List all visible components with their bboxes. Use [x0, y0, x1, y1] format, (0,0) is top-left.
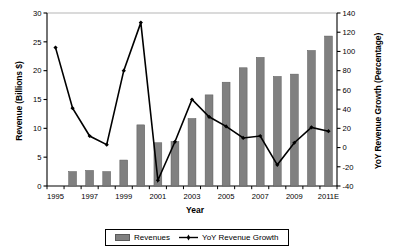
legend-item-yoy-growth: YoY Revenue Growth — [179, 233, 279, 242]
svg-text:20: 20 — [343, 124, 351, 133]
svg-text:2001: 2001 — [149, 192, 166, 201]
svg-text:30: 30 — [33, 9, 41, 18]
svg-text:60: 60 — [343, 86, 351, 95]
svg-text:0: 0 — [37, 182, 41, 191]
bar-2010 — [307, 50, 315, 186]
svg-text:15: 15 — [33, 95, 41, 104]
svg-text:1995: 1995 — [47, 192, 64, 201]
x-axis-ticks: 199519971999200120032005200720092011E — [47, 186, 339, 201]
bar-1996 — [69, 172, 77, 186]
line-marker-2000 — [139, 21, 143, 25]
svg-text:2007: 2007 — [252, 192, 269, 201]
svg-text:20: 20 — [33, 66, 41, 75]
svg-text:-40: -40 — [343, 182, 354, 191]
svg-text:80: 80 — [343, 66, 351, 75]
bar-2003 — [188, 119, 196, 186]
bar-2007 — [256, 57, 264, 186]
bar-1999 — [120, 160, 128, 186]
bar-2008 — [273, 76, 281, 186]
bar-2011E — [325, 36, 333, 186]
svg-text:5: 5 — [37, 153, 41, 162]
line-marker-icon — [179, 233, 198, 242]
svg-text:1999: 1999 — [115, 192, 132, 201]
svg-text:140: 140 — [343, 9, 356, 18]
line-marker-1999 — [122, 69, 126, 73]
bar-series-revenues — [69, 36, 333, 186]
legend-label-yoy-growth: YoY Revenue Growth — [202, 233, 279, 242]
svg-text:2011E: 2011E — [318, 192, 339, 201]
bar-2006 — [239, 68, 247, 186]
y-axis-right-ticks: -40-20020406080100120140 — [337, 9, 355, 191]
legend-label-revenues: Revenues — [134, 233, 170, 242]
bar-1997 — [86, 170, 94, 186]
chart-plot-area: 051015202530 -40-20020406080100120140 19… — [0, 0, 403, 252]
bar-1998 — [103, 172, 111, 186]
bar-2009 — [290, 74, 298, 186]
chart-figure: Revenue (Billions $) YoY Revenue Growth … — [0, 0, 403, 252]
svg-text:2009: 2009 — [286, 192, 303, 201]
svg-text:1997: 1997 — [81, 192, 98, 201]
svg-text:25: 25 — [33, 38, 41, 47]
svg-text:10: 10 — [33, 124, 41, 133]
legend-item-revenues: Revenues — [115, 233, 170, 242]
svg-text:2005: 2005 — [218, 192, 235, 201]
bar-2004 — [205, 95, 213, 186]
bar-2005 — [222, 82, 230, 186]
svg-text:-20: -20 — [343, 163, 354, 172]
chart-legend: Revenues YoY Revenue Growth — [105, 229, 289, 246]
line-marker-1995 — [53, 46, 57, 50]
y-axis-left-ticks: 051015202530 — [33, 9, 47, 191]
bar-2000 — [137, 125, 145, 186]
svg-text:0: 0 — [343, 143, 347, 152]
svg-text:40: 40 — [343, 105, 351, 114]
svg-text:100: 100 — [343, 47, 356, 56]
svg-text:120: 120 — [343, 28, 356, 37]
bar-swatch-icon — [115, 234, 130, 241]
svg-text:2003: 2003 — [184, 192, 201, 201]
